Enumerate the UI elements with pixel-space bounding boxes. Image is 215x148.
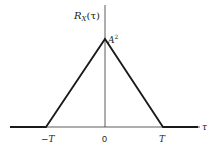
y-axis-label: RX(τ) — [73, 10, 100, 23]
autocorrelation-chart: RX(τ) A2 τ −T 0 T — [0, 0, 215, 148]
x-axis-label: τ — [202, 122, 208, 132]
tick-label-neg-T: −T — [41, 134, 56, 144]
tick-label-T: T — [159, 134, 166, 144]
peak-value-label: A2 — [107, 33, 119, 45]
triangle-function-curve — [10, 39, 198, 127]
tick-label-zero: 0 — [102, 134, 107, 144]
